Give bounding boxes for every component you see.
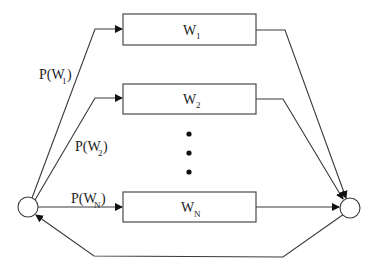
svg-text:2: 2 <box>98 148 103 158</box>
diagram-canvas: W 1 W 2 W N P(W 1 ) P(W 2 ) P(W N ) <box>0 0 378 270</box>
edge-source-to-w1 <box>32 29 122 198</box>
box-w2-label: W <box>183 92 197 107</box>
edge-w1-to-sink <box>256 30 346 198</box>
svg-text:): ) <box>103 139 108 155</box>
edge-w2-to-sink <box>256 99 343 199</box>
box-w2: W 2 <box>123 84 256 114</box>
prob-label-w1: P(W 1 ) <box>39 67 72 86</box>
box-w2-subscript: 2 <box>196 100 201 110</box>
svg-text:): ) <box>67 67 72 83</box>
svg-text:): ) <box>101 191 106 207</box>
box-wn: W N <box>123 192 256 222</box>
source-node <box>18 197 38 217</box>
svg-text:1: 1 <box>62 76 67 86</box>
svg-text:N: N <box>94 200 101 210</box>
prob-label-w2: P(W 2 ) <box>75 139 108 158</box>
box-w1-subscript: 1 <box>196 31 201 41</box>
box-wn-subscript: N <box>194 209 201 219</box>
ellipsis-dots <box>186 131 191 174</box>
sink-node <box>340 198 360 218</box>
box-w1-label: W <box>183 23 197 38</box>
box-w1: W 1 <box>123 14 256 45</box>
box-wn-label: W <box>181 200 195 215</box>
